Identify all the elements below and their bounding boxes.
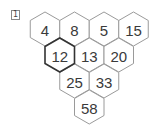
hex-value-r3-c2: 33 [96,74,113,91]
hex-value-r2-c2: 13 [81,48,98,65]
hex-value-r4-c1: 58 [81,100,98,117]
hex-value-r1-c1: 4 [41,22,49,39]
hex-value-r1-c4: 15 [125,22,142,39]
number-pyramid: 48515121320253358 [0,0,152,127]
hex-value-r3-c1: 25 [66,74,83,91]
hex-value-r2-c1: 12 [51,48,68,65]
hex-value-r1-c2: 8 [70,22,78,39]
hex-value-r1-c3: 5 [100,22,108,39]
hex-value-r2-c3: 20 [110,48,127,65]
